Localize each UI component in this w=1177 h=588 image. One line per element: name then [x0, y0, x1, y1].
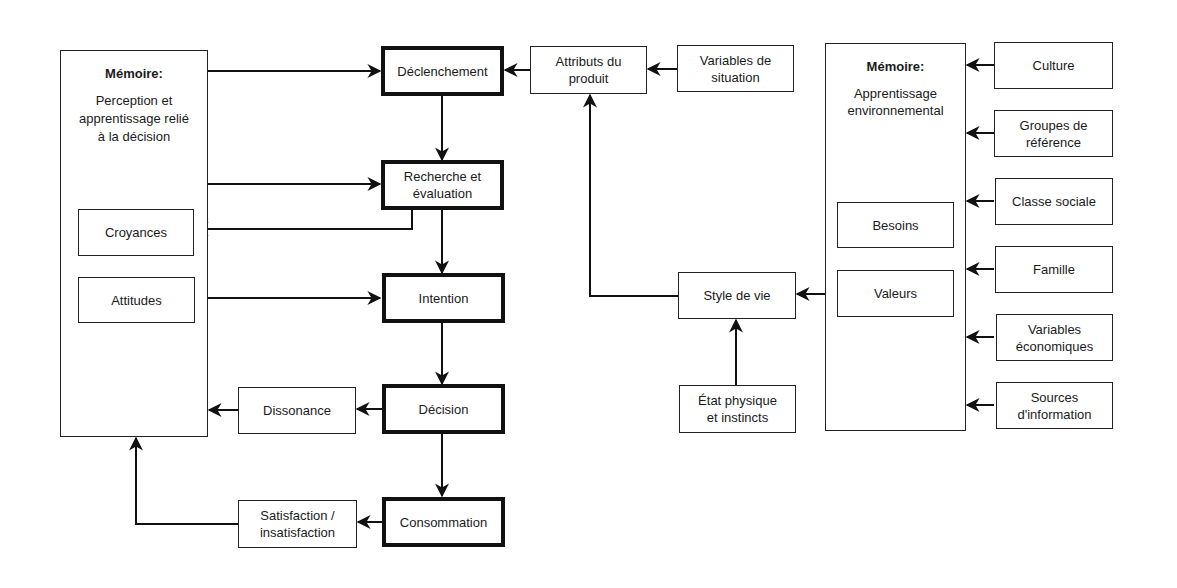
search-evaluation-label: Recherche et évaluation — [393, 168, 493, 202]
product-attributes-box: Attributs du produit — [530, 46, 647, 94]
intention-box: Intention — [382, 273, 505, 323]
influence-culture-box: Culture — [994, 42, 1113, 89]
situational-variables-label: Variables de situation — [691, 52, 781, 86]
influence-label: Sources d'information — [1005, 389, 1105, 423]
left-memory-body: Perception et apprentissage relié à la d… — [74, 92, 194, 146]
left-memory-title: Mémoire: — [105, 65, 163, 82]
influence-economic-variables-box: Variables économiques — [996, 314, 1113, 361]
influence-family-box: Famille — [995, 246, 1113, 293]
beliefs-box: Croyances — [78, 209, 194, 256]
dissonance-label: Dissonance — [263, 402, 331, 419]
consumption-label: Consommation — [400, 514, 487, 531]
consumption-box: Consommation — [382, 497, 505, 547]
right-memory-body: Apprentissage environnemental — [836, 85, 956, 119]
decision-box: Décision — [382, 384, 505, 434]
lifestyle-box: Style de vie — [678, 272, 796, 319]
influence-label: Culture — [1033, 57, 1075, 74]
decision-label: Décision — [419, 401, 469, 418]
needs-label: Besoins — [872, 217, 918, 234]
trigger-label: Déclenchement — [397, 63, 487, 80]
influence-label: Variables économiques — [1005, 321, 1105, 355]
beliefs-label: Croyances — [105, 224, 167, 241]
right-memory-title: Mémoire: — [867, 58, 925, 75]
satisfaction-label: Satisfaction / insatisfaction — [248, 507, 348, 541]
dissonance-box: Dissonance — [238, 387, 356, 434]
physical-state-label: État physique et instincts — [693, 392, 783, 426]
influence-information-sources-box: Sources d'information — [996, 382, 1113, 429]
influence-reference-groups-box: Groupes de référence — [994, 110, 1113, 157]
situational-variables-box: Variables de situation — [677, 45, 794, 92]
influence-label: Classe sociale — [1012, 193, 1096, 210]
attitudes-box: Attitudes — [78, 277, 195, 323]
influence-label: Groupes de référence — [1009, 117, 1099, 151]
trigger-box: Déclenchement — [381, 46, 504, 96]
product-attributes-label: Attributs du produit — [549, 53, 629, 87]
values-label: Valeurs — [874, 285, 917, 302]
satisfaction-box: Satisfaction / insatisfaction — [238, 500, 357, 548]
influence-label: Famille — [1033, 261, 1075, 278]
search-evaluation-box: Recherche et évaluation — [381, 160, 504, 210]
lifestyle-label: Style de vie — [703, 287, 770, 304]
physical-state-box: État physique et instincts — [679, 385, 796, 433]
needs-box: Besoins — [837, 202, 954, 248]
intention-label: Intention — [419, 290, 469, 307]
attitudes-label: Attitudes — [111, 292, 162, 309]
values-box: Valeurs — [837, 270, 954, 317]
influence-social-class-box: Classe sociale — [995, 178, 1113, 225]
